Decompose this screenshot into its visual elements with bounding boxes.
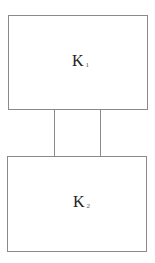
connector-right (100, 110, 101, 157)
node-k1-label: K1 (72, 52, 89, 70)
node-k2-subscript: 2 (87, 202, 91, 210)
node-k2-letter: K (73, 193, 85, 210)
node-k1-letter: K (72, 52, 84, 69)
node-k1-subscript: 1 (86, 61, 90, 69)
node-k2-label: K2 (73, 193, 90, 211)
connector-left (54, 110, 55, 157)
